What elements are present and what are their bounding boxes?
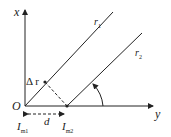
im2-label: Im2 <box>62 121 73 134</box>
perpendicular-dashed <box>45 82 67 106</box>
im2-point <box>65 104 68 107</box>
angle-arc <box>93 84 103 106</box>
x-axis-label: x <box>14 6 19 18</box>
r1-label: r1 <box>94 17 101 29</box>
delta-r-label: Δ r <box>26 76 39 87</box>
origin-label: O <box>12 100 21 112</box>
d-label: d <box>44 116 50 127</box>
im1-label: Im1 <box>17 121 28 134</box>
y-axis-label: y <box>155 108 160 120</box>
diagram-graphics <box>0 0 171 137</box>
ray-r2 <box>67 33 142 106</box>
delta-r-point <box>43 80 46 83</box>
diagram: x y O r1 r2 Δ r d Im1 Im2 <box>0 0 171 137</box>
r2-label: r2 <box>135 48 142 60</box>
